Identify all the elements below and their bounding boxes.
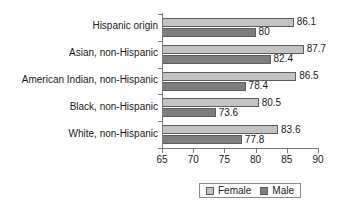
value-axis-line: [162, 148, 319, 149]
category-tick-4: [158, 121, 162, 122]
bar-male-4: [162, 135, 242, 144]
category-tick-2: [158, 68, 162, 69]
category-tick-0: [158, 14, 162, 15]
legend-label-male: Male: [272, 186, 294, 196]
legend-swatch-female-icon: [206, 187, 214, 195]
legend-item-male[interactable]: Male: [260, 186, 294, 196]
bar-value-label: 73.6: [219, 107, 238, 118]
bar-male-3: [162, 108, 216, 117]
category-tick-5: [158, 148, 162, 149]
bar-male-2: [162, 82, 246, 91]
value-tick-75: [224, 149, 225, 153]
bar-value-label: 82.4: [274, 53, 293, 64]
value-tick-70: [193, 149, 194, 153]
category-axis-line: [162, 13, 163, 149]
bar-male-1: [162, 55, 271, 64]
legend-swatch-male-icon: [260, 187, 268, 195]
category-tick-3: [158, 94, 162, 95]
value-tick-label-75: 75: [219, 154, 230, 165]
value-tick-label-65: 65: [156, 154, 167, 165]
bar-female-0: [162, 18, 294, 27]
category-label-3: Black, non-Hispanic: [0, 101, 165, 112]
value-tick-85: [287, 149, 288, 153]
category-tick-1: [158, 41, 162, 42]
bar-value-label: 80: [259, 26, 270, 37]
bar-value-label: 80.5: [262, 97, 281, 108]
plot-area: 86.18087.782.486.578.480.573.683.677.8: [162, 14, 318, 148]
legend-item-female[interactable]: Female: [206, 186, 251, 196]
chart-legend: Female Male: [199, 183, 301, 198]
chart-title-remnant: [150, 0, 280, 6]
value-tick-65: [162, 149, 163, 153]
bar-male-0: [162, 28, 256, 37]
value-tick-80: [256, 149, 257, 153]
category-label-0: Hispanic origin: [0, 20, 165, 31]
bar-value-label: 86.5: [299, 70, 318, 81]
value-tick-label-80: 80: [250, 154, 261, 165]
category-label-2: American Indian, non-Hispanic: [0, 74, 165, 85]
value-tick-label-70: 70: [188, 154, 199, 165]
bar-value-label: 86.1: [297, 16, 316, 27]
value-tick-label-85: 85: [281, 154, 292, 165]
bar-value-label: 87.7: [307, 43, 326, 54]
category-label-4: White, non-Hispanic: [0, 128, 165, 139]
value-tick-90: [318, 149, 319, 153]
bar-value-label: 78.4: [249, 80, 268, 91]
value-tick-label-90: 90: [312, 154, 323, 165]
bar-chart: Hispanic originAsian, non-HispanicAmeric…: [0, 0, 347, 212]
bar-value-label: 77.8: [245, 134, 264, 145]
category-label-1: Asian, non-Hispanic: [0, 47, 165, 58]
bar-female-3: [162, 98, 259, 107]
legend-label-female: Female: [218, 186, 251, 196]
bar-value-label: 83.6: [281, 124, 300, 135]
bar-female-2: [162, 72, 296, 81]
